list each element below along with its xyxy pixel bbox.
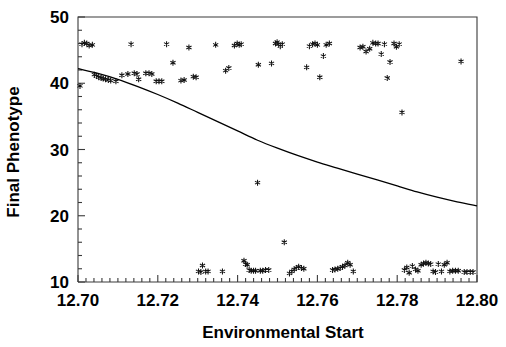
axis-frame (78, 17, 477, 282)
data-point (136, 76, 141, 82)
data-point (128, 41, 133, 47)
x-axis-ticks (78, 275, 477, 282)
data-point (407, 270, 412, 276)
y-tick-label: 40 (50, 74, 69, 93)
data-point (458, 58, 463, 64)
y-axis-ticks (78, 17, 85, 282)
plot-frame (78, 17, 477, 282)
data-point (399, 109, 404, 115)
x-tick-label: 12.70 (57, 291, 100, 310)
data-point (256, 62, 261, 68)
data-point (164, 41, 169, 47)
data-point (170, 60, 175, 66)
y-tick-label: 20 (50, 207, 69, 226)
data-point (307, 43, 312, 49)
y-tick-label: 30 (50, 141, 69, 160)
data-point (119, 72, 124, 78)
x-tick-label: 12.72 (137, 291, 180, 310)
data-point (379, 51, 384, 57)
data-point (382, 41, 387, 47)
y-tick-label: 50 (50, 8, 69, 27)
data-point (220, 268, 225, 274)
data-point (317, 74, 322, 80)
data-point (143, 70, 148, 76)
scatter-markers (77, 39, 475, 276)
data-point (436, 261, 441, 267)
data-point (269, 60, 274, 66)
data-point (200, 262, 205, 268)
x-tick-label: 12.74 (216, 291, 259, 310)
fitted-trend-curve (78, 69, 477, 206)
data-point (385, 75, 390, 81)
data-point (351, 268, 356, 274)
data-point (186, 44, 191, 50)
y-axis-tick-labels: 1020304050 (50, 8, 69, 292)
data-point (266, 267, 271, 273)
data-point (321, 53, 326, 59)
x-tick-label: 12.80 (456, 291, 499, 310)
y-tick-label: 10 (50, 273, 69, 292)
data-point (304, 64, 309, 70)
data-point (255, 180, 260, 186)
data-point (125, 71, 130, 77)
x-axis-tick-labels: 12.7012.7212.7412.7612.7812.80 (57, 291, 499, 310)
x-axis-title: Environmental Start (202, 323, 364, 342)
data-point (387, 59, 392, 65)
x-tick-label: 12.76 (296, 291, 339, 310)
data-point (213, 42, 218, 48)
y-axis-title: Final Phenotype (4, 86, 23, 217)
scatter-plot-figure: 12.7012.7212.7412.7612.7812.80 102030405… (0, 0, 506, 347)
data-point (439, 268, 444, 274)
data-point (282, 239, 287, 245)
plot-canvas: 12.7012.7212.7412.7612.7812.80 102030405… (0, 0, 506, 347)
x-tick-label: 12.78 (376, 291, 419, 310)
